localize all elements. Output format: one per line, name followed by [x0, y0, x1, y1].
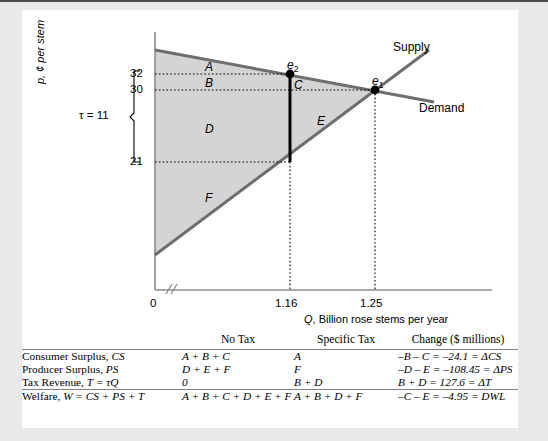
table-header-row: No Tax Specific Tax Change ($ millions) — [22, 332, 518, 349]
cell-change: B + D = 127.6 = ΔT — [398, 376, 518, 390]
table-row: Producer Surplus, PS D + E + F F –D – E … — [22, 363, 518, 376]
e1-letter: e — [372, 74, 379, 88]
cell-change: –D – E = –108.45 = ΔPS — [398, 363, 518, 376]
header-change: Change ($ millions) — [398, 332, 518, 349]
row-label-welfare: Welfare, W = CS + PS + T — [22, 389, 182, 403]
row-label-consumer-surplus: Consumer Surplus, CS — [22, 349, 182, 363]
region-label-e: E — [317, 114, 325, 128]
cell-change-value: –C – E = –4.95 = DWL — [398, 390, 505, 402]
row-label-symbol: CS — [111, 350, 124, 362]
region-label-d: D — [205, 122, 214, 136]
cell-change: –C – E = –4.95 = DWL — [398, 389, 518, 403]
equilibrium-label-e1: e1 — [372, 74, 383, 90]
y-tick-32: 32 — [130, 67, 143, 79]
cell-no-tax-value: 0 — [182, 376, 188, 388]
x-tick-1-16: 1.16 — [275, 297, 297, 309]
equilibrium-label-e2: e2 — [287, 58, 298, 74]
table-row: Consumer Surplus, CS A + B + C A –B – C … — [22, 349, 518, 363]
supply-demand-chart: p, ¢ per stem 32 30 21 τ = 11 0 1.16 1.2… — [22, 10, 518, 328]
row-label-text: Consumer Surplus, — [22, 350, 111, 362]
row-label-symbol: PS — [106, 363, 119, 375]
region-label-a: A — [205, 60, 213, 74]
row-label-symbol: T = τQ — [87, 376, 119, 388]
e1-subscript: 1 — [379, 80, 384, 90]
row-label-producer-surplus: Producer Surplus, PS — [22, 363, 182, 376]
y-tick-30: 30 — [130, 83, 143, 95]
e2-subscript: 2 — [294, 64, 299, 74]
cell-specific-tax: B + D — [294, 376, 398, 390]
cell-no-tax: A + B + C — [182, 349, 294, 363]
x-axis-title-symbol: Q — [304, 313, 313, 325]
demand-curve-label: Demand — [419, 101, 464, 115]
cell-specific-tax: A — [294, 349, 398, 363]
header-blank — [22, 332, 182, 349]
cell-specific-tax-value: A — [294, 350, 301, 362]
table-total-section: Welfare, W = CS + PS + T A + B + C + D +… — [22, 389, 518, 403]
e2-letter: e — [287, 58, 294, 72]
region-label-f: F — [205, 191, 212, 205]
cell-change-value: –B – C = –24.1 = ΔCS — [398, 350, 501, 362]
tax-bracket-label: τ = 11 — [79, 109, 109, 121]
region-label-b: B — [205, 76, 213, 90]
table-row: Tax Revenue, T = τQ 0 B + D B + D = 127.… — [22, 376, 518, 390]
row-label-tax-revenue: Tax Revenue, T = τQ — [22, 376, 182, 390]
y-axis-title-symbol: p, ¢ per stem — [34, 20, 46, 84]
header-specific-tax: Specific Tax — [294, 332, 398, 349]
header-no-tax: No Tax — [182, 332, 294, 349]
cell-no-tax: A + B + C + D + E + F — [182, 389, 294, 403]
axis-break-mark-2 — [171, 284, 177, 294]
cell-change-value: –D – E = –108.45 = ΔPS — [398, 363, 512, 375]
x-axis-title: Q, Billion rose stems per year — [304, 313, 448, 325]
cell-no-tax: 0 — [182, 376, 294, 390]
row-label-text: Producer Surplus, — [22, 363, 106, 375]
cell-specific-tax: F — [294, 363, 398, 376]
cell-change-value: B + D = 127.6 = ΔT — [398, 376, 491, 388]
region-label-c: C — [294, 78, 303, 92]
cell-specific-tax: A + B + D + F — [294, 389, 398, 403]
x-axis-title-rest: , Billion rose stems per year — [313, 313, 449, 325]
x-tick-1-25: 1.25 — [360, 297, 382, 309]
axis-break-mark-1 — [166, 284, 172, 294]
cell-no-tax: D + E + F — [182, 363, 294, 376]
figure-outer-frame: p, ¢ per stem 32 30 21 τ = 11 0 1.16 1.2… — [0, 0, 548, 441]
cell-no-tax-value: A + B + C + D + E + F — [182, 390, 291, 402]
y-axis-title: p, ¢ per stem — [34, 4, 46, 100]
chart-graphics — [22, 10, 518, 328]
figure-white-page: p, ¢ per stem 32 30 21 τ = 11 0 1.16 1.2… — [22, 10, 518, 428]
row-label-symbol: W = CS + PS + T — [63, 390, 144, 402]
y-tick-21: 21 — [130, 155, 143, 167]
welfare-effects-table: No Tax Specific Tax Change ($ millions) … — [22, 332, 518, 403]
table-body: Consumer Surplus, CS A + B + C A –B – C … — [22, 349, 518, 389]
cell-specific-tax-value: B + D — [294, 376, 322, 388]
cell-specific-tax-value: A + B + D + F — [294, 390, 362, 402]
surplus-shaded-region — [155, 50, 375, 255]
x-tick-origin: 0 — [150, 297, 156, 309]
cell-specific-tax-value: F — [294, 363, 301, 375]
cell-change: –B – C = –24.1 = ΔCS — [398, 349, 518, 363]
row-label-text: Welfare, — [22, 390, 63, 402]
row-label-text: Tax Revenue, — [22, 376, 87, 388]
table-header: No Tax Specific Tax Change ($ millions) — [22, 332, 518, 349]
cell-no-tax-value: D + E + F — [182, 363, 231, 375]
cell-no-tax-value: A + B + C — [182, 350, 230, 362]
table-row-welfare: Welfare, W = CS + PS + T A + B + C + D +… — [22, 389, 518, 403]
supply-curve-label: Supply — [393, 40, 430, 54]
